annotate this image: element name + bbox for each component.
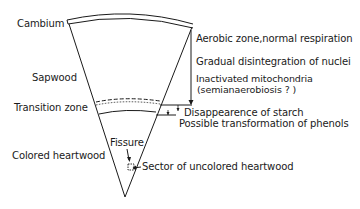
zone-arrow-head — [189, 100, 194, 105]
label-fissure: Fissure — [110, 137, 144, 148]
label-phenols: Possible transformation of phenols — [179, 118, 349, 129]
label-sapwood: Sapwood — [32, 72, 77, 83]
label-starch: Disappearence of starch — [184, 107, 304, 118]
label-aerobic-zone: Aerobic zone,normal respiration — [196, 33, 353, 44]
transition-dashed-arc-1 — [96, 99, 160, 102]
sector-box — [128, 164, 134, 170]
wood-section-diagram: Cambium Sapwood Transition zone Colored … — [0, 0, 360, 209]
label-cambium: Cambium — [17, 18, 64, 29]
label-colored-heartwood: Colored heartwood — [12, 150, 105, 161]
label-transition-zone: Transition zone — [14, 102, 88, 113]
label-sector: Sector of uncolored heartwood — [142, 161, 293, 172]
transition-dotted-arc-2 — [96, 102, 160, 105]
label-semianaerobiosis: (semianaerobiosis ? ) — [197, 84, 296, 95]
heartwood-boundary-arc — [99, 110, 156, 114]
label-nuclei: Gradual disintegration of nuclei — [196, 56, 351, 67]
label-mitochondria: Inactivated mitochondria — [196, 73, 313, 84]
